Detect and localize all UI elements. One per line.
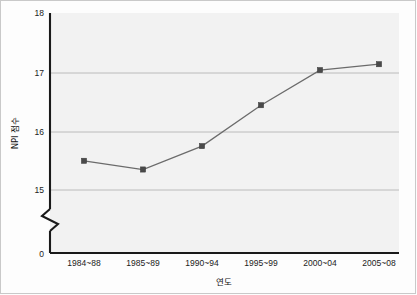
data-point-marker — [199, 144, 204, 149]
y-tick-label-16: 16 — [35, 127, 45, 137]
data-point-marker — [258, 103, 263, 108]
x-tick-label-2: 1990~94 — [185, 258, 219, 268]
y-tick-label-18: 18 — [35, 8, 45, 18]
chart-figure: 18 17 16 15 0 NPI 점수 1984~88 1985~89 199… — [0, 0, 417, 295]
data-point-marker — [317, 68, 322, 73]
plot-area-background — [50, 13, 399, 253]
x-axis-title: 연도 — [216, 277, 232, 287]
x-tick-label-3: 1995~99 — [244, 258, 278, 268]
data-point-marker — [140, 167, 145, 172]
x-tick-label-4: 2000~04 — [303, 258, 337, 268]
y-tick-label-17: 17 — [35, 68, 45, 78]
x-tick-label-5: 2005~08 — [362, 258, 396, 268]
x-tick-label-0: 1984~88 — [67, 258, 101, 268]
y-tick-label-15: 15 — [35, 185, 45, 195]
x-tick-label-1: 1985~89 — [126, 258, 160, 268]
y-axis-title: NPI 점수 — [10, 117, 20, 150]
y-tick-label-0: 0 — [39, 249, 44, 259]
line-chart-canvas: 18 17 16 15 0 NPI 점수 1984~88 1985~89 199… — [0, 0, 417, 295]
data-point-marker — [376, 62, 381, 67]
y-tick-labels: 18 17 16 15 0 — [35, 8, 45, 259]
data-point-marker — [81, 158, 86, 163]
x-tick-labels: 1984~88 1985~89 1990~94 1995~99 2000~04 … — [67, 258, 396, 268]
